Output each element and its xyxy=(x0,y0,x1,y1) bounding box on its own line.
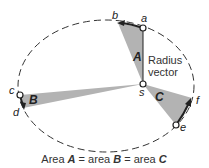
point-e xyxy=(173,122,179,128)
point-c xyxy=(17,92,23,98)
label-e: e xyxy=(180,121,186,133)
kepler-second-law-diagram: a b c d e f s A B C Radius vector Area A… xyxy=(0,0,209,168)
label-b: b xyxy=(112,9,118,21)
sector-C xyxy=(143,84,192,125)
label-s: s xyxy=(139,86,145,98)
radius-vector-label-line2: vector xyxy=(148,66,178,78)
label-f: f xyxy=(196,94,200,106)
area-label-A: A xyxy=(132,50,142,64)
label-d: d xyxy=(13,106,20,118)
radius-vector-label-line1: Radius xyxy=(148,54,183,66)
label-c: c xyxy=(9,84,15,96)
arrow-d-icon xyxy=(20,102,26,110)
orbit-ellipse xyxy=(18,20,194,152)
label-a: a xyxy=(141,12,147,24)
sector-B xyxy=(20,84,143,108)
area-label-C: C xyxy=(155,90,164,104)
area-label-B: B xyxy=(29,93,38,107)
point-a xyxy=(140,25,146,31)
caption: Area A = area B = area C xyxy=(41,153,167,165)
